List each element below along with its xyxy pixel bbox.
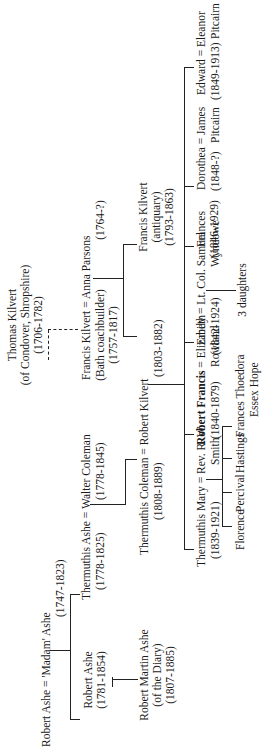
name: Robert Martin Ashe [138,615,151,735]
drop-line [123,336,137,337]
dates: (1747-1823) [54,560,67,618]
drop-line [70,594,80,595]
dates: (1781-1854) [95,635,108,725]
descent-line [50,650,70,651]
dates: (1846-1929) [208,189,221,269]
dates: (1706-1782) [32,260,45,390]
name: Robert Francis [195,371,207,445]
spouse-name: Walter Coleman [80,434,92,509]
name: Thomas Kilvert [6,260,19,390]
grandchild-percival: Percival [234,474,247,512]
couple-thermuthis-robert-kilvert: Thermuthis Coleman = Robert Kilvert [138,379,151,555]
dates: (1808-1889) [152,463,165,521]
descent-line [93,278,123,279]
dates: (1849-1913) [209,43,222,101]
person-thomas-kilvert: Thomas Kilvert (of Condover, Shropshire)… [6,260,45,390]
grandchild-hastings: Hastings [234,433,247,473]
marriage-sign: = [80,512,92,519]
name: Francis Kilvert [80,311,92,380]
spouse-name: Eleanor [195,11,207,47]
name: Emily [195,317,207,345]
drop-line [222,492,232,493]
dashed-connector [48,330,49,360]
drop-line [123,244,137,245]
name: Robert Ashe [40,690,52,747]
name: Edward [195,59,207,95]
dates: (1848-?) [209,151,222,191]
note: (of the Diary) [151,615,164,735]
name: Thermuthis Coleman [138,458,150,555]
child-thermuthis-mary: Thermuthis Mary = Rev. R. W. [195,425,208,567]
note: (Bath coachbuilder) [94,285,107,385]
marriage-sign: = [195,50,207,57]
descent-line [148,384,184,385]
child-dorothea: Dorothea = James [195,107,208,190]
marriage-sign: = [138,448,150,455]
spouse-name: 'Madam' Ashe [40,612,52,677]
marriage-sign: = [80,301,92,308]
grandchildren-bar [222,427,223,527]
descent-line [206,479,222,480]
drop-line [184,549,194,550]
dates: (1840-1879) [209,382,222,440]
person-francis-kilvert-antiquary: Francis Kilvert (antiquary) (1793-1863) [137,167,176,267]
drop-line [184,67,194,68]
couple-thermuthis-walter: Thermuthis Ashe = Walter Coleman [80,434,93,600]
dashed-descent-line [48,329,78,330]
connector [125,460,126,505]
wyndowe-daughters: 3 daughters [236,245,249,335]
family-tree: Thomas Kilvert (of Condover, Shropshire)… [0,0,275,755]
spouse-dates: (1803-1882) [152,320,165,378]
spouse-surname: Smith [209,438,222,465]
spouse-dates: (1764-?) [94,185,107,255]
name: Thermuthis Mary [195,486,207,567]
child-frances: Frances (1846-1929) [195,189,221,269]
drop-line [184,186,194,187]
marriage-sign: = [195,308,207,315]
spouse-dates: (1778-1845) [94,443,107,501]
sibling-bar [123,245,124,337]
grandchild-florence: Florence [234,510,247,550]
name: Robert Ashe [82,635,95,725]
note: (antiquary) [150,167,163,267]
note: (of Condover, Shropshire) [19,260,32,390]
grandchild-essex-hope: Essex Hope [248,362,261,417]
spouse-name: Anna Parsons [80,235,92,299]
spouse-surname: Pitcairn [209,107,222,143]
sibling-bar [70,595,71,720]
couple-francis-anna: Francis Kilvert = Anna Parsons [80,235,93,380]
marriage-sign: = [195,477,207,484]
couple-robert-madam-ashe: Robert Ashe = 'Madam' Ashe [40,612,53,747]
descent-line [90,504,125,505]
dates: (1807-1885) [164,615,177,735]
drop-line [184,246,194,247]
dates: (1839-1921) [209,502,222,560]
drop-line [184,434,194,435]
child-edward: Edward = Eleanor [195,11,208,95]
name: Frances [195,189,208,269]
dates: (1778-1825) [94,533,107,591]
descent-line [112,679,138,680]
dates: (1757-1817) [107,285,120,385]
person-robert-martin-ashe: Robert Martin Ashe (of the Diary) (1807-… [138,615,177,735]
name: Thermuthis Ashe [80,521,92,600]
drop-line [222,526,232,527]
name: Dorothea [195,147,207,190]
drop-line [70,719,80,720]
children-bar [184,68,185,550]
dates: (1793-1863) [163,167,176,267]
spouse-surname: Pitcairn [209,3,222,39]
grandchild-frances-thoedora: Frances Thoedora [234,355,247,438]
drop-line [222,426,232,427]
drop-line [222,458,232,459]
spouse-name: Robert Kilvert [138,379,150,446]
marriage-sign: = [40,680,52,687]
spouse-name: James [195,107,207,135]
marriage-sign: = [195,361,207,368]
descent-line [206,290,236,291]
drop-line [184,342,194,343]
marriage-sign: = [195,138,207,145]
person-robert-ashe-1781: Robert Ashe (1781-1854) [82,635,108,725]
name: Francis Kilvert [137,167,150,267]
drop-line [125,459,137,460]
